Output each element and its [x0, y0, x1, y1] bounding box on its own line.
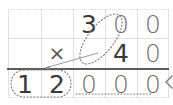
cell-r2c3[interactable] [73, 39, 105, 68]
cell-r1c1[interactable] [9, 10, 41, 39]
cell-r3c3[interactable]: 0 [73, 70, 105, 99]
cell-r3c5[interactable]: 0 [137, 70, 169, 99]
cell-r3c4[interactable]: 0 [105, 70, 137, 99]
cell-r2c5[interactable]: 0 [137, 39, 169, 68]
cell-r2c4[interactable]: 4 [105, 39, 137, 68]
cell-r3c2[interactable]: 2 [41, 70, 73, 99]
cell-r3c1[interactable]: 1 [9, 70, 41, 99]
worksheet-canvas: 3 0 0 × 4 0 1 2 0 0 0 [0, 0, 173, 105]
cell-r2c1[interactable] [9, 39, 41, 68]
cell-r1c3[interactable]: 3 [73, 10, 105, 39]
multiply-sign: × [41, 39, 73, 68]
cell-r1c2[interactable] [41, 10, 73, 39]
cell-r1c4[interactable]: 0 [105, 10, 137, 39]
cell-r1c5[interactable]: 0 [137, 10, 169, 39]
